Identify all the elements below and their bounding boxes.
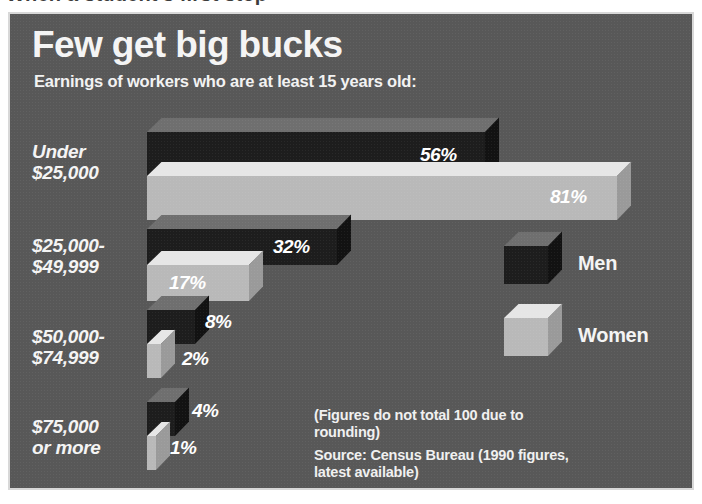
- chart-subtitle: Earnings of workers who are at least 15 …: [34, 72, 416, 91]
- light-cube-icon: [504, 304, 562, 344]
- bar-women-75000-or-more: [147, 436, 156, 470]
- value-label-women-25000-49999: 17%: [169, 272, 206, 294]
- category-label-under-25000: Under $25,000: [32, 142, 99, 183]
- value-label-men-75000-or-more: 4%: [192, 400, 218, 422]
- note-rounding: (Figures do not total 100 due to roundin…: [314, 407, 614, 441]
- note-source: Source: Census Bureau (1990 figures, lat…: [314, 447, 634, 481]
- bar-top-face: [147, 118, 499, 132]
- cube-front-face: [504, 318, 548, 356]
- value-label-women-50000-74999: 2%: [182, 348, 208, 370]
- bar-top-face: [147, 162, 631, 176]
- bar-top-face: [147, 251, 263, 265]
- category-label-25000-49999: $25,000- $49,999: [32, 236, 105, 277]
- infographic-panel: Few get big bucks Earnings of workers wh…: [8, 12, 694, 490]
- clipped-headline-text: When a student's first stop: [6, 0, 267, 6]
- legend-label-men: Men: [578, 252, 617, 275]
- category-label-50000-74999: $50,000- $74,999: [32, 327, 105, 368]
- dark-cube-icon: [504, 232, 562, 272]
- bar-women-50000-74999: [147, 344, 161, 378]
- bar-front-face: [147, 176, 617, 220]
- bar-women-under-25000: [147, 176, 617, 220]
- bar-top-face: [147, 215, 351, 229]
- value-label-men-25000-49999: 32%: [273, 236, 310, 258]
- value-label-men-under-25000: 56%: [420, 144, 457, 166]
- value-label-women-under-25000: 81%: [550, 186, 587, 208]
- legend-label-women: Women: [578, 324, 648, 347]
- clipped-headline-above: When a student's first stop: [0, 0, 702, 11]
- cube-front-face: [504, 246, 548, 284]
- category-label-75000-or-more: $75,000 or more: [32, 417, 101, 458]
- bar-front-face: [147, 344, 161, 378]
- value-label-men-50000-74999: 8%: [205, 311, 231, 333]
- bar-front-face: [147, 436, 156, 470]
- value-label-women-75000-or-more: 1%: [170, 437, 196, 459]
- page-title: Few get big bucks: [32, 26, 343, 63]
